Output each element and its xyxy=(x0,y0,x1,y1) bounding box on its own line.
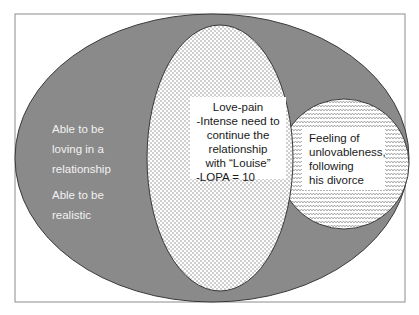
outer-line-5: realistic xyxy=(52,208,111,222)
center-line-6: -LOPA = 10 xyxy=(190,170,286,184)
outer-line-1: Able to be xyxy=(52,122,111,136)
outer-line-4: Able to be xyxy=(52,188,111,202)
outer-region-label: Able to be loving in a relationship Able… xyxy=(52,122,111,222)
right-line-1: Feeling of xyxy=(309,131,386,145)
right-line-3: following xyxy=(309,159,386,173)
center-line-3: continue the xyxy=(190,128,286,142)
center-region-label: Love-pain -Intense need to continue the … xyxy=(190,100,286,184)
outer-line-3: relationship xyxy=(52,162,111,176)
right-line-4: his divorce xyxy=(309,173,386,187)
center-line-2: -Intense need to xyxy=(190,114,286,128)
outer-line-2: loving in a xyxy=(52,142,111,156)
center-line-5: with “Louise” xyxy=(190,156,286,170)
right-line-2: unlovableness, xyxy=(309,145,386,159)
right-region-label: Feeling of unlovableness, following his … xyxy=(309,131,386,187)
center-line-1: Love-pain xyxy=(190,100,286,114)
center-line-4: relationship xyxy=(190,142,286,156)
